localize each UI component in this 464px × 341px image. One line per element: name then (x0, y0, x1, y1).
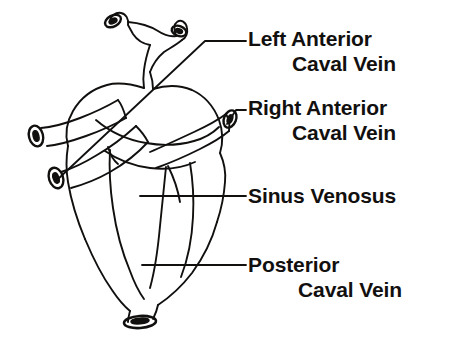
heart-body-outline (66, 84, 225, 311)
vessel-opening-top-left (103, 12, 123, 30)
label-line-2: Caval Vein (248, 277, 402, 302)
posterior-caval-vein (124, 305, 158, 329)
leader-left-anterior-caval-vein (57, 41, 246, 180)
left-anterior-caval-vein-trunk (46, 126, 148, 190)
label-sinus-venosus: Sinus Venosus (248, 183, 396, 208)
label-right-anterior-caval-vein: Right Anterior Caval Vein (248, 95, 396, 145)
label-line-1: Sinus Venosus (248, 183, 396, 208)
label-left-anterior-caval-vein: Left Anterior Caval Vein (248, 26, 396, 76)
label-line-1: Left Anterior (248, 26, 396, 51)
vessel-opening-left-lower (46, 166, 66, 190)
label-posterior-caval-vein: Posterior Caval Vein (248, 252, 402, 302)
label-line-1: Right Anterior (248, 95, 396, 120)
label-line-2: Caval Vein (248, 120, 396, 145)
label-line-1: Posterior (248, 252, 402, 277)
pulmonary-trunk-bifurcation (103, 12, 188, 89)
heart-venous-anatomy-figure: Left Anterior Caval Vein Right Anterior … (0, 0, 464, 341)
label-line-2: Caval Vein (248, 51, 396, 76)
